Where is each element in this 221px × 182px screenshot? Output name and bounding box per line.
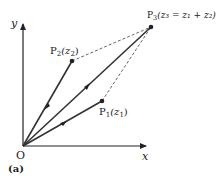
panel-label: (a) [8,163,24,174]
point-p1 [100,99,105,104]
point-p2 [70,59,75,64]
vector-z2 [23,61,72,146]
y-axis-label: y [10,17,18,30]
p3-label: P3(z₃ = z₁ + z₂) [147,10,216,22]
dashed-p2-p3 [72,27,151,61]
dashed-p1-p3 [102,27,151,101]
p2-label: P2(z2) [50,45,79,58]
complex-addition-diagram: y x O (a) P2(z2) P1(z1) P3(z₃ = z₁ + z₂) [0,0,221,182]
p1-label: P1(z1) [99,106,128,119]
origin-label: O [16,149,25,162]
arrow-mid-z1-icon [60,121,67,126]
x-axis-label: x [142,150,149,163]
point-p3 [149,25,154,30]
